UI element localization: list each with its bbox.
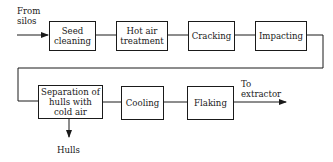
- step-label: Hot air: [120, 26, 163, 36]
- output-label-line1: To: [241, 79, 281, 89]
- step-seed-cleaning: Seed cleaning: [49, 21, 96, 51]
- step-label: Flaking: [194, 98, 227, 108]
- input-label-line1: From: [17, 6, 40, 16]
- step-label: cleaning: [54, 36, 91, 46]
- step-label: Impacting: [259, 31, 303, 41]
- step-impacting: Impacting: [255, 21, 307, 51]
- step-label: cold air: [41, 107, 100, 117]
- step-label: treatment: [120, 36, 163, 46]
- input-label-line2: silos: [17, 16, 40, 26]
- step-label: Seed: [54, 26, 91, 36]
- output-label-line2: extractor: [241, 89, 281, 99]
- step-cooling: Cooling: [121, 86, 164, 120]
- step-cracking: Cracking: [188, 21, 235, 51]
- step-label: Cracking: [192, 31, 232, 41]
- input-label: From silos: [17, 6, 40, 26]
- step-separation: Separation of hulls with cold air: [38, 85, 103, 119]
- step-flaking: Flaking: [187, 86, 234, 120]
- step-label: hulls with: [41, 97, 100, 107]
- output-label: To extractor: [241, 79, 281, 99]
- step-hot-air-treatment: Hot air treatment: [116, 21, 168, 51]
- step-label: Cooling: [126, 98, 159, 108]
- hulls-label: Hulls: [57, 145, 80, 155]
- step-label: Separation of: [41, 87, 100, 97]
